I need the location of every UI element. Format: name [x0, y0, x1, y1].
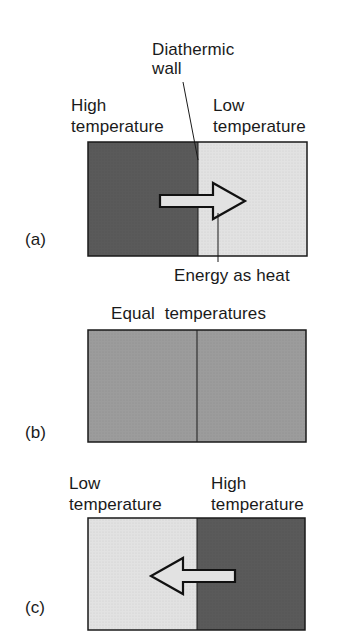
low-temp-label-a-line1: Low	[213, 96, 245, 115]
high-temp-label-a-line1: High	[71, 96, 106, 115]
high-temp-label-a-line2: temperature	[71, 117, 164, 136]
panel-b-boxes	[88, 330, 306, 442]
panel-a-tag: (a)	[25, 230, 46, 249]
wall-label-line2: wall	[152, 59, 182, 78]
equal-temperatures-label: Equal temperatures	[111, 304, 266, 323]
panel-c-tag: (c)	[25, 598, 45, 617]
panel-b-tag: (b)	[25, 423, 46, 442]
low-temp-label-a-line2: temperature	[213, 117, 306, 136]
wall-label-line1: Diathermic	[152, 40, 234, 59]
low-temp-label-c-line1: Low	[69, 474, 101, 493]
high-temp-label-c-line2: temperature	[211, 495, 304, 514]
panel-c-boxes	[88, 518, 305, 630]
low-temp-label-c-line2: temperature	[69, 495, 162, 514]
energy-as-heat-label: Energy as heat	[174, 266, 290, 285]
panel-a-boxes	[88, 82, 307, 262]
high-temp-label-c-line1: High	[211, 474, 246, 493]
